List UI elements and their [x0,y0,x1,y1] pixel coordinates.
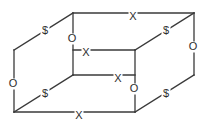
edge-label-bottom-front-horizontal: X [75,109,83,121]
edge-label-top-left-diagonal: $ [42,24,48,36]
edge-label-left-front-vertical: O [9,77,18,89]
edge-label-bottom-left-diagonal: $ [42,87,48,99]
cube-diagram-canvas: XXXXOOOO$$$$ [0,0,211,125]
edge-label-upper-front-horizontal: X [82,46,90,58]
edge-label-top-back-horizontal: X [129,10,137,22]
cube-wireframe-svg: XXXXOOOO$$$$ [0,0,211,125]
edge-label-left-back-vertical: O [68,32,77,44]
edge-label-bottom-right-diagonal: $ [163,87,169,99]
edge-label-top-right-diagonal: $ [163,24,169,36]
edge-label-group: XXXXOOOO$$$$ [9,10,198,121]
edge-label-right-front-vertical: O [130,82,139,94]
edge-label-lower-back-horizontal: X [114,72,122,84]
edge-label-right-back-vertical: O [189,40,198,52]
